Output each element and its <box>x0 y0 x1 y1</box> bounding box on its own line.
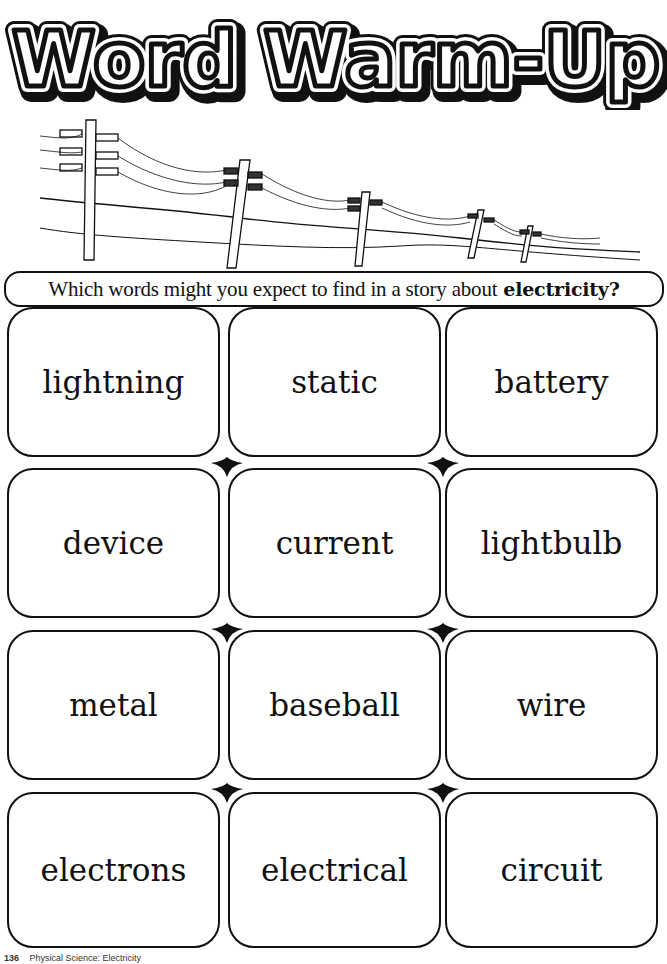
word-grid: lightning static battery device current … <box>0 305 667 955</box>
question-text: Which words might you expect to find in … <box>48 277 497 302</box>
word-label: lightning <box>43 364 185 400</box>
question-emphasis: electricity? <box>503 278 619 300</box>
page-footer: 136 Physical Science: Electricity <box>4 953 141 963</box>
power-lines-illustration <box>40 110 640 270</box>
word-label: current <box>276 525 394 561</box>
word-card-lightning: lightning <box>7 307 220 457</box>
word-label: battery <box>495 364 609 400</box>
word-label: circuit <box>501 852 603 888</box>
word-card-device: device <box>7 468 220 618</box>
word-card-baseball: baseball <box>228 630 441 780</box>
word-label: static <box>291 364 378 400</box>
word-label: lightbulb <box>481 525 623 561</box>
footer-text: Physical Science: Electricity <box>30 953 142 963</box>
word-card-current: current <box>228 468 441 618</box>
word-card-metal: metal <box>7 630 220 780</box>
page-number: 136 <box>4 953 19 963</box>
word-label: electrical <box>261 852 408 888</box>
word-label: wire <box>517 687 587 723</box>
word-label: metal <box>69 687 158 723</box>
word-card-circuit: circuit <box>445 792 658 948</box>
word-card-electrons: electrons <box>7 792 220 948</box>
word-card-electrical: electrical <box>228 792 441 948</box>
word-card-wire: wire <box>445 630 658 780</box>
word-label: baseball <box>269 687 400 723</box>
word-label: device <box>63 525 164 561</box>
word-card-static: static <box>228 307 441 457</box>
word-label: electrons <box>41 852 187 888</box>
word-card-lightbulb: lightbulb <box>445 468 658 618</box>
title-text: Word Warm-Up <box>12 15 660 104</box>
question-banner: Which words might you expect to find in … <box>4 271 664 307</box>
page-title: Word Warm-Up Word Warm-Up Word Warm-Up W… <box>0 0 667 110</box>
word-card-battery: battery <box>445 307 658 457</box>
